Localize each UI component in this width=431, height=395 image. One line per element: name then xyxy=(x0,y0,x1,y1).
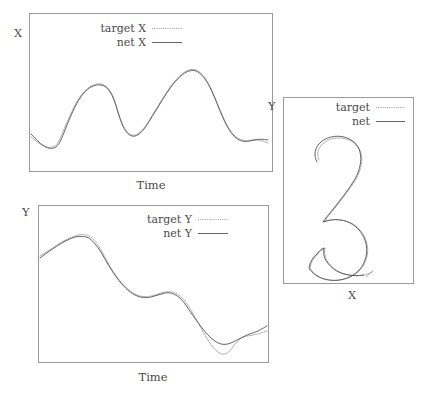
curve-target-xy xyxy=(310,138,373,280)
figure-root: X Time target X net X Y Time target Y ne… xyxy=(0,0,431,395)
legend-label-target-xy: target xyxy=(336,101,371,114)
curve-target-y xyxy=(40,235,267,355)
panel-y-vs-time: Y Time target Y net Y xyxy=(21,205,269,384)
legend-label-net-y: net Y xyxy=(163,227,193,240)
panel-frame-x-vs-time xyxy=(30,14,273,172)
curve-net-x xyxy=(31,70,268,148)
panel-frame-y-vs-time xyxy=(39,206,269,363)
legend-x-panel: target X net X xyxy=(100,22,182,49)
x-axis-label-xy-panel: X xyxy=(348,288,357,302)
legend-xy-panel: target net xyxy=(336,101,405,128)
y-axis-label-xy-panel: Y xyxy=(267,99,276,113)
legend-label-target-x: target X xyxy=(100,22,146,35)
curve-net-xy xyxy=(309,136,367,280)
legend-label-target-y: target Y xyxy=(147,213,193,226)
y-axis-label-x-panel: X xyxy=(14,26,23,40)
legend-label-net-x: net X xyxy=(117,36,147,49)
x-axis-label-y-panel: Time xyxy=(138,370,167,384)
legend-y-panel: target Y net Y xyxy=(147,213,228,240)
y-axis-label-y-panel: Y xyxy=(21,205,30,219)
panel-xy-trajectory: Y X target net xyxy=(267,98,414,303)
panel-x-vs-time: X Time target X net X xyxy=(14,14,273,193)
curve-net-y xyxy=(40,236,267,344)
x-axis-label-x-panel: Time xyxy=(136,178,165,192)
legend-label-net-xy: net xyxy=(352,115,371,128)
curve-target-x xyxy=(31,69,268,147)
